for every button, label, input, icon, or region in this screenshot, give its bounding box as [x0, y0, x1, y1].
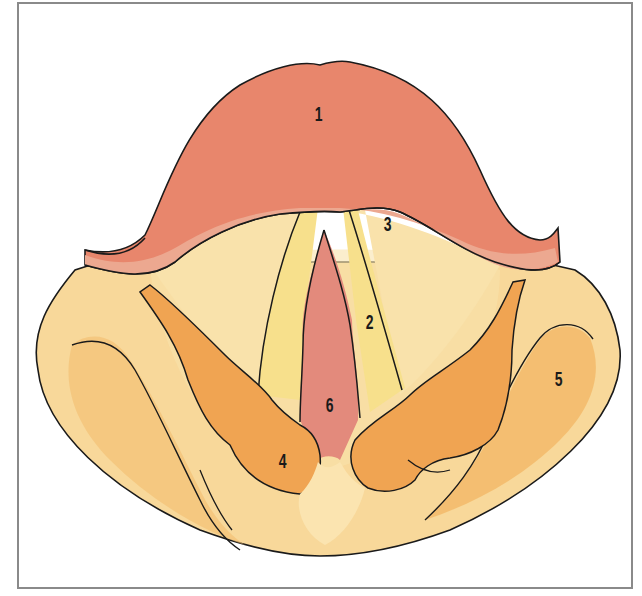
- label-3-vestibular-fold: 3: [384, 214, 392, 234]
- label-1-epiglottis: 1: [315, 104, 323, 124]
- label-4-arytenoid: 4: [279, 451, 287, 471]
- label-6-glottis: 6: [326, 395, 334, 415]
- label-2-vocal-cord: 2: [366, 312, 374, 332]
- label-5-piriform-sinus: 5: [555, 369, 563, 389]
- larynx-illustration: [0, 0, 642, 596]
